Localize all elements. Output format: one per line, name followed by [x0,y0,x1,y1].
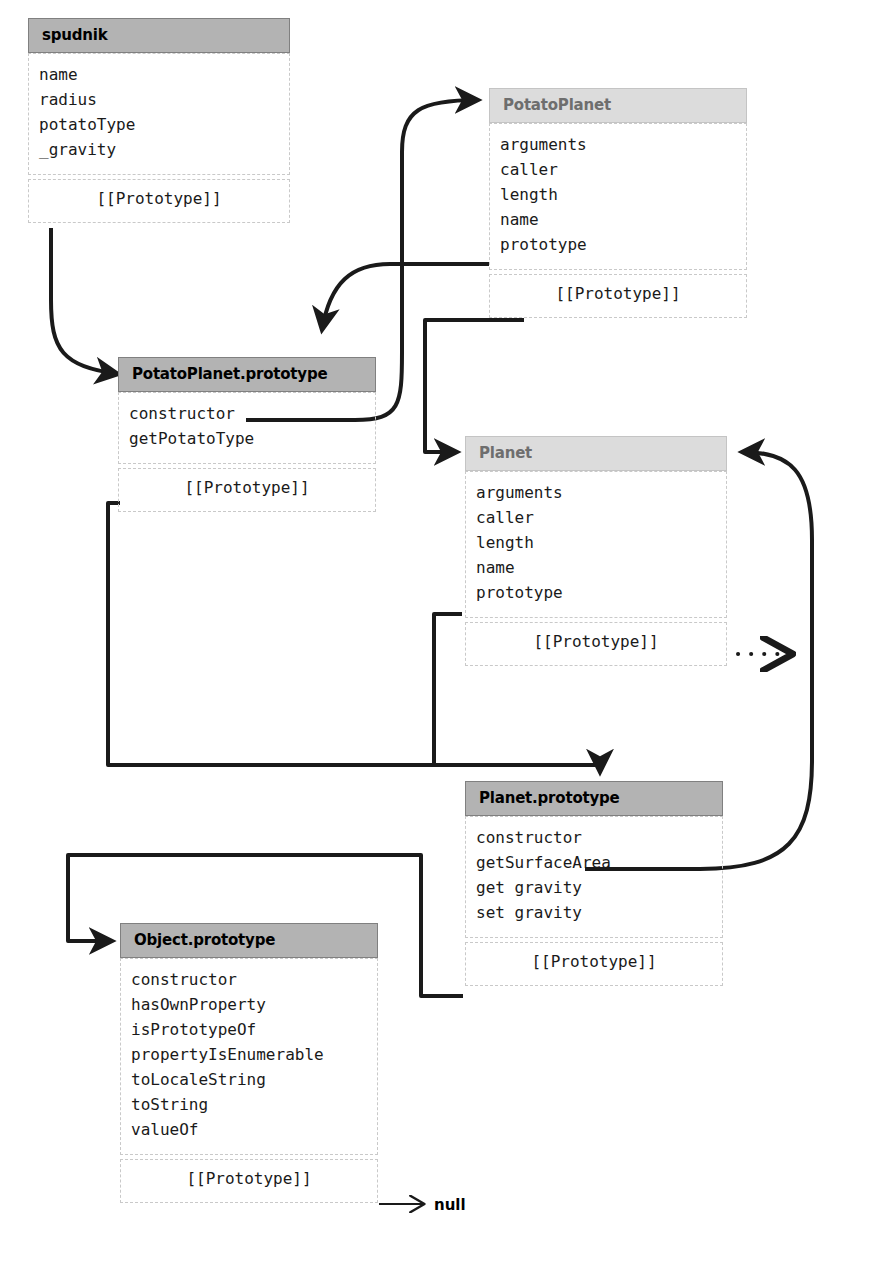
property-item: prototype [476,580,726,605]
property-item: prototype [500,232,746,257]
property-item: toString [131,1092,377,1117]
card-prototype-slot-planet[interactable]: [[Prototype]] [465,622,727,666]
property-item: hasOwnProperty [131,992,377,1017]
prototype-chain-diagram: spudnik name radius potatoType _gravity … [0,0,876,1273]
card-prototype-slot-potatoplanet-prototype[interactable]: [[Prototype]] [118,468,376,512]
edge-planet-prototype-prop-to-object [434,614,462,765]
card-object-prototype[interactable]: Object.prototype constructor hasOwnPrope… [120,923,378,1203]
prototype-slot-label: [[Prototype]] [466,951,722,973]
card-properties-spudnik: name radius potatoType _gravity [28,53,290,175]
edge-spudnik-proto-to-potatoplanet-prototype [51,228,118,374]
card-title-potatoplanet-prototype: PotatoPlanet.prototype [118,357,376,392]
property-item: constructor [476,825,722,850]
property-item: length [500,182,746,207]
card-title-spudnik: spudnik [28,18,290,53]
card-properties-potatoplanet: arguments caller length name prototype [489,123,747,270]
property-item: arguments [500,132,746,157]
property-item: constructor [129,401,375,426]
card-properties-planet: arguments caller length name prototype [465,471,727,618]
card-planet[interactable]: Planet arguments caller length name prot… [465,436,727,666]
property-item: name [39,62,289,87]
property-item: constructor [131,967,377,992]
property-item: radius [39,87,289,112]
property-item: _gravity [39,137,289,162]
card-prototype-slot-object-prototype[interactable]: [[Prototype]] [120,1159,378,1203]
property-item: isPrototypeOf [131,1017,377,1042]
property-item: getPotatoType [129,426,375,451]
card-title-object-prototype: Object.prototype [120,923,378,958]
card-spudnik[interactable]: spudnik name radius potatoType _gravity … [28,18,290,223]
property-item: getSurfaceArea [476,850,722,875]
prototype-slot-label: [[Prototype]] [466,631,726,653]
edge-potatoplanet-proto-to-planet [425,320,524,452]
card-potatoplanet-prototype[interactable]: PotatoPlanet.prototype constructor getPo… [118,357,376,512]
card-planet-prototype[interactable]: Planet.prototype constructor getSurfaceA… [465,781,723,986]
card-prototype-slot-potatoplanet[interactable]: [[Prototype]] [489,274,747,318]
property-item: name [476,555,726,580]
prototype-slot-label: [[Prototype]] [29,188,289,210]
card-properties-planet-prototype: constructor getSurfaceArea get gravity s… [465,816,723,938]
prototype-slot-label: [[Prototype]] [119,477,375,499]
card-potatoplanet[interactable]: PotatoPlanet arguments caller length nam… [489,88,747,318]
property-item: set gravity [476,900,722,925]
property-item: length [476,530,726,555]
property-item: caller [476,505,726,530]
property-item: get gravity [476,875,722,900]
property-item: valueOf [131,1117,377,1142]
property-item: arguments [476,480,726,505]
card-properties-potatoplanet-prototype: constructor getPotatoType [118,392,376,464]
card-title-planet: Planet [465,436,727,471]
card-prototype-slot-spudnik[interactable]: [[Prototype]] [28,179,290,223]
card-title-potatoplanet: PotatoPlanet [489,88,747,123]
property-item: propertyIsEnumerable [131,1042,377,1067]
card-title-planet-prototype: Planet.prototype [465,781,723,816]
null-terminal-label: null [434,1196,466,1214]
property-item: toLocaleString [131,1067,377,1092]
card-properties-object-prototype: constructor hasOwnProperty isPrototypeOf… [120,958,378,1155]
property-item: caller [500,157,746,182]
property-item: name [500,207,746,232]
property-item: potatoType [39,112,289,137]
prototype-slot-label: [[Prototype]] [490,283,746,305]
prototype-slot-label: [[Prototype]] [121,1168,377,1190]
card-prototype-slot-planet-prototype[interactable]: [[Prototype]] [465,942,723,986]
